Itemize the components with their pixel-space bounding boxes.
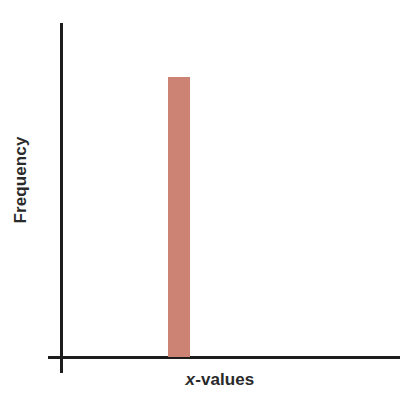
plot-area [62,23,400,357]
histogram-bar [168,77,190,357]
x-axis-label: x-values [120,370,320,390]
y-axis-label: Frequency [11,100,31,260]
x-axis-label-variable: x [186,370,196,389]
histogram-figure: Frequency x-values [0,0,420,411]
x-axis-label-suffix: -values [195,370,254,389]
